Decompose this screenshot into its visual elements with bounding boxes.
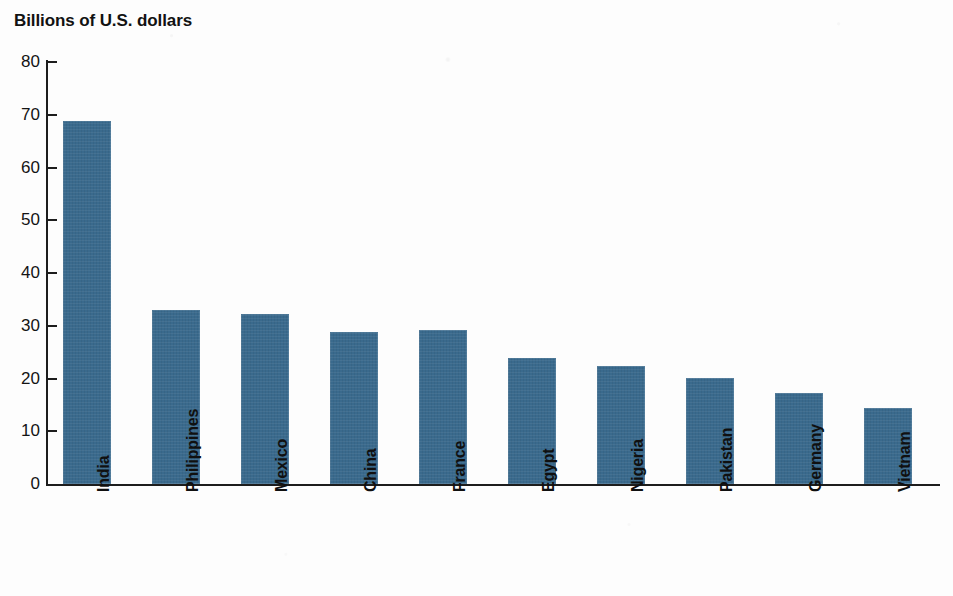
y-axis-tick — [48, 167, 57, 169]
y-axis-tick — [48, 378, 57, 380]
x-axis-label: Mexico — [273, 439, 291, 492]
y-axis-tick — [48, 325, 57, 327]
bar — [63, 121, 111, 484]
x-axis-label: Pakistan — [718, 428, 736, 492]
y-axis-tick-label: 80 — [2, 53, 40, 70]
x-axis-label: China — [362, 449, 380, 492]
y-axis-tick-label: 40 — [2, 264, 40, 281]
x-axis-label: Nigeria — [629, 439, 647, 492]
y-axis-tick — [48, 114, 57, 116]
y-axis-tick-label-wrap: 20 — [0, 379, 40, 380]
y-axis-tick-label-wrap: 40 — [0, 273, 40, 274]
y-axis-tick-label: 0 — [2, 475, 40, 492]
y-axis-tick-label: 30 — [2, 317, 40, 334]
x-axis-line — [46, 484, 940, 486]
y-axis-tick — [48, 219, 57, 221]
x-axis-label: Germany — [807, 424, 825, 492]
y-axis-tick-label-wrap: 80 — [0, 62, 40, 63]
y-axis-tick-label-wrap: 50 — [0, 220, 40, 221]
y-axis-tick-label-wrap: 30 — [0, 326, 40, 327]
y-axis-tick-label-wrap: 60 — [0, 168, 40, 169]
x-axis-label: India — [95, 456, 113, 492]
x-axis-label: France — [451, 441, 469, 492]
y-axis-tick-label-wrap: 70 — [0, 115, 40, 116]
y-axis-tick-label-wrap: 10 — [0, 431, 40, 432]
y-axis-tick-label: 50 — [2, 211, 40, 228]
y-axis-tick-label: 60 — [2, 159, 40, 176]
x-axis-label: Vietnam — [896, 431, 914, 492]
plot-area: 01020304050607080 IndiaPhilippinesMexico… — [0, 0, 953, 596]
y-axis-tick — [48, 272, 57, 274]
bar-chart: Billions of U.S. dollars 010203040506070… — [0, 0, 953, 596]
y-axis-tick — [48, 61, 57, 63]
y-axis-tick-label: 10 — [2, 422, 40, 439]
x-axis-label: Philippines — [184, 409, 202, 492]
y-axis-tick-label: 20 — [2, 370, 40, 387]
x-axis-label: Egypt — [540, 449, 558, 492]
y-axis-tick — [48, 430, 57, 432]
y-axis-tick-label-wrap: 0 — [0, 484, 40, 485]
y-axis-tick-label: 70 — [2, 106, 40, 123]
